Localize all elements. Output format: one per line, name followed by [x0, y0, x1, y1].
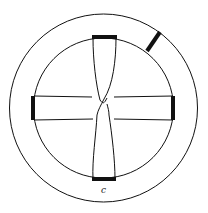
diagram-label: c — [101, 185, 106, 195]
diagram-canvas: c — [0, 0, 208, 213]
left-bar — [31, 96, 35, 120]
bottom-bar — [92, 177, 116, 181]
right-bar — [171, 96, 175, 120]
outer-circle — [10, 14, 198, 202]
inner-circle — [34, 38, 174, 178]
top-bar — [92, 35, 117, 39]
vertical-band — [93, 38, 116, 179]
knot-diagram — [0, 0, 208, 213]
radial-tick — [147, 32, 160, 51]
